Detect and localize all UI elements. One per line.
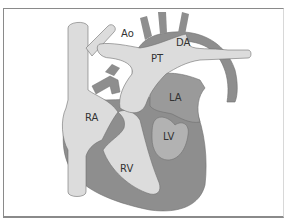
arch-branch-2 — [158, 12, 167, 34]
arch-branch-1 — [140, 16, 152, 40]
right-pulmonary-vessel-1 — [92, 76, 120, 94]
heart-diagram: Ao DA PT RA LA LV RV — [0, 0, 288, 224]
label-aorta: Ao — [121, 28, 134, 39]
label-left-atrium: LA — [169, 92, 182, 103]
label-right-ventricle: RV — [120, 163, 133, 174]
label-ductus-arteriosus: DA — [176, 37, 191, 48]
right-pulmonary-vessel-2 — [105, 64, 120, 76]
label-left-ventricle: LV — [163, 131, 174, 142]
label-pulmonary-trunk: PT — [151, 53, 164, 64]
arch-branch-3 — [178, 12, 189, 35]
label-right-atrium: RA — [85, 112, 99, 123]
